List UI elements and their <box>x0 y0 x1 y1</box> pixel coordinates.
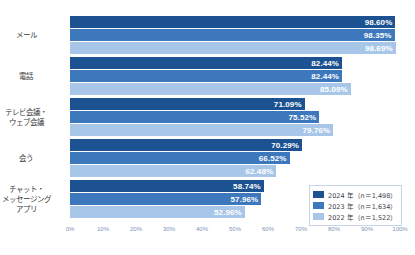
bar[interactable]: 62.48% <box>70 165 276 177</box>
legend-label: 2023 年（n＝1,634） <box>328 201 397 211</box>
bar-value-label: 75.52% <box>288 113 316 122</box>
legend-item[interactable]: 2024 年（n＝1,498） <box>313 189 397 200</box>
bar[interactable]: 82.44% <box>70 70 342 82</box>
x-axis-tick-label: 0% <box>66 226 75 232</box>
clipped-header-text <box>0 0 415 7</box>
x-axis-tick-label: 40% <box>196 226 208 232</box>
bar[interactable]: 75.52% <box>70 111 319 123</box>
bar-row: 62.48% <box>70 165 400 177</box>
bar-value-label: 98.60% <box>365 18 393 27</box>
bar-value-label: 52.96% <box>214 208 242 217</box>
bar-value-label: 98.35% <box>364 31 392 40</box>
bar-value-label: 71.09% <box>274 100 302 109</box>
bar[interactable]: 98.35% <box>70 29 395 41</box>
legend-item[interactable]: 2022 年（n＝1,522） <box>313 211 397 222</box>
bar[interactable]: 70.29% <box>70 139 302 151</box>
bar-value-label: 82.44% <box>311 72 339 81</box>
grouped-bar-chart: 98.60%98.35%98.69%82.44%82.44%85.09%71.0… <box>0 0 415 255</box>
category-label-line: メッセージング <box>0 195 62 205</box>
category-label: 電話 <box>0 72 62 82</box>
category-label-line: テレビ会議・ <box>0 108 62 118</box>
category-label: メール <box>0 31 62 41</box>
bar[interactable]: 82.44% <box>70 57 342 69</box>
bar-row: 75.52% <box>70 111 400 123</box>
bar-row: 79.76% <box>70 124 400 136</box>
chart-legend: 2024 年（n＝1,498）2023 年（n＝1,634）2022 年（n＝1… <box>309 185 402 226</box>
bar[interactable]: 98.60% <box>70 16 395 28</box>
legend-item[interactable]: 2023 年（n＝1,634） <box>313 200 397 211</box>
category-label-line: アプリ <box>0 205 62 215</box>
x-axis-tick-label: 10% <box>97 226 109 232</box>
x-axis-tick-label: 60% <box>262 226 274 232</box>
category-label-line: ウェブ会議 <box>0 118 62 128</box>
category-label: テレビ会議・ウェブ会議 <box>0 108 62 128</box>
bar-value-label: 62.48% <box>245 167 273 176</box>
legend-swatch <box>313 213 324 220</box>
x-axis-tick-label: 30% <box>163 226 175 232</box>
x-axis-tick-label: 50% <box>229 226 241 232</box>
category-label-line: 会う <box>0 154 62 164</box>
bar-value-label: 82.44% <box>311 59 339 68</box>
legend-label: 2024 年（n＝1,498） <box>328 190 397 200</box>
bar-value-label: 58.74% <box>233 182 261 191</box>
bar-value-label: 79.76% <box>302 126 330 135</box>
bar-row: 85.09% <box>70 83 400 95</box>
category-label-line: 電話 <box>0 72 62 82</box>
x-axis-tick-label: 100% <box>392 226 407 232</box>
bar[interactable]: 79.76% <box>70 124 333 136</box>
bar-row: 71.09% <box>70 98 400 110</box>
x-axis-tick-label: 70% <box>295 226 307 232</box>
bar-value-label: 70.29% <box>271 141 299 150</box>
legend-swatch <box>313 202 324 209</box>
bar[interactable]: 66.52% <box>70 152 290 164</box>
bar-row: 98.69% <box>70 42 400 54</box>
bar[interactable]: 57.96% <box>70 193 261 205</box>
bar-row: 98.35% <box>70 29 400 41</box>
bar-group: 82.44%82.44%85.09% <box>70 57 400 96</box>
bar-row: 70.29% <box>70 139 400 151</box>
legend-label: 2022 年（n＝1,522） <box>328 212 397 222</box>
bar-value-label: 85.09% <box>320 85 348 94</box>
bar-group: 98.60%98.35%98.69% <box>70 16 400 55</box>
bar[interactable]: 85.09% <box>70 83 351 95</box>
category-label: 会う <box>0 154 62 164</box>
legend-swatch <box>313 191 324 198</box>
bar-row: 66.52% <box>70 152 400 164</box>
x-axis-tick-label: 20% <box>130 226 142 232</box>
bar-group: 71.09%75.52%79.76% <box>70 98 400 137</box>
x-axis-tick-label: 80% <box>328 226 340 232</box>
bar-row: 82.44% <box>70 70 400 82</box>
bar[interactable]: 52.96% <box>70 206 245 218</box>
bar[interactable]: 58.74% <box>70 180 264 192</box>
category-label-line: メール <box>0 31 62 41</box>
bar-value-label: 66.52% <box>259 154 287 163</box>
category-label-line: チャット・ <box>0 185 62 195</box>
bar[interactable]: 71.09% <box>70 98 305 110</box>
bar-row: 98.60% <box>70 16 400 28</box>
x-axis-tick-label: 90% <box>361 226 373 232</box>
category-label: チャット・メッセージングアプリ <box>0 185 62 215</box>
bar-row: 82.44% <box>70 57 400 69</box>
bar[interactable]: 98.69% <box>70 42 396 54</box>
x-axis: 0%10%20%30%40%50%60%70%80%90%100% <box>70 226 400 238</box>
bar-value-label: 57.96% <box>231 195 259 204</box>
bar-group: 70.29%66.52%62.48% <box>70 139 400 178</box>
bar-value-label: 98.69% <box>365 44 393 53</box>
